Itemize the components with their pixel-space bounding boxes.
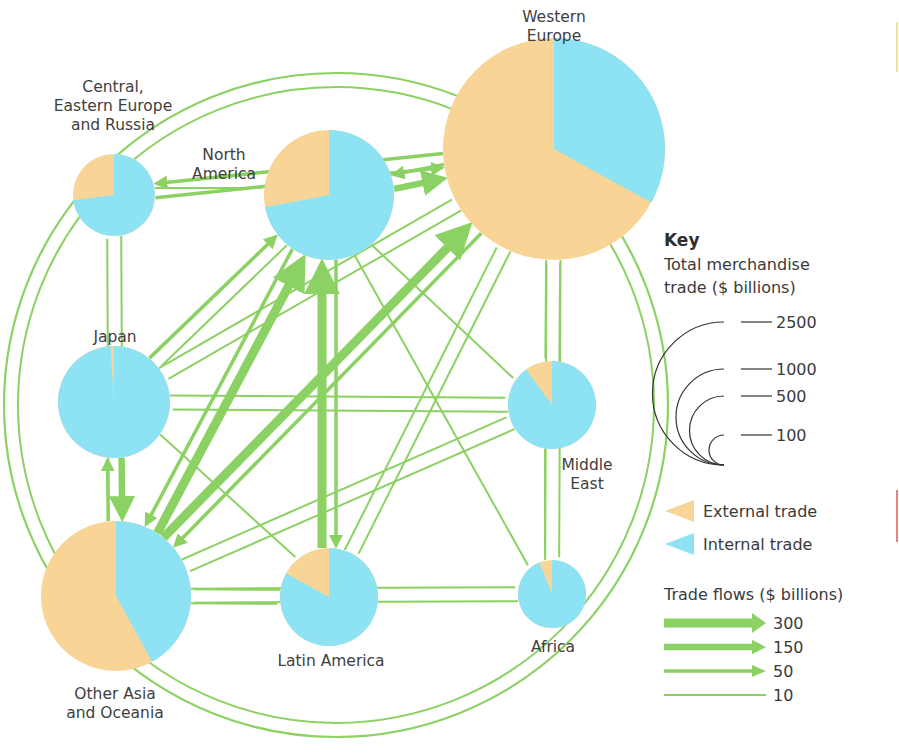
trade-flow-me-to-oa	[190, 429, 514, 571]
region-label-line: Middle	[561, 456, 612, 474]
legend-size-value: 100	[776, 426, 807, 445]
pie-we	[443, 38, 665, 260]
legend-flow-value: 300	[773, 614, 804, 633]
legend-flow-arrowhead	[752, 640, 766, 654]
pie-na	[264, 130, 394, 260]
region-label-line: Africa	[531, 638, 575, 656]
legend-size-title-line-2: trade ($ billions)	[664, 278, 796, 297]
pie-cee	[73, 154, 155, 236]
region-label-oa: Other Asiaand Oceania	[66, 685, 163, 722]
region-label-jp: Japan	[92, 328, 136, 346]
region-label-line: Europe	[527, 27, 582, 45]
trade-flow-we-to-oa	[177, 233, 481, 544]
region-label-line: Other Asia	[74, 685, 155, 703]
region-label-line: Central,	[82, 78, 143, 96]
legend-size-title-line-1: Total merchandise	[663, 255, 810, 274]
legend-flow-title: Trade flows ($ billions)	[663, 585, 843, 604]
region-label-line: and Oceania	[66, 704, 163, 722]
legend-size-value: 2500	[776, 313, 817, 332]
region-label-af: Africa	[531, 638, 575, 656]
region-label-line: North	[202, 146, 245, 164]
legend-flow-arrowhead	[752, 665, 766, 677]
region-label-line: Latin America	[277, 652, 384, 670]
pie-oa	[41, 521, 191, 671]
region-label-me: MiddleEast	[561, 456, 612, 493]
trade-flow-na-to-we	[394, 180, 438, 189]
pie-me	[508, 361, 596, 449]
trade-flow-we-to-la	[359, 251, 511, 554]
legend-flow-value: 10	[773, 686, 793, 705]
legend: Key Total merchandise trade ($ billions)…	[652, 230, 843, 705]
region-label-line: East	[570, 475, 603, 493]
legend-flow-value: 50	[773, 662, 793, 681]
legend-internal-swatch	[665, 533, 694, 555]
legend-internal-label: Internal trade	[703, 535, 812, 554]
legend-size-value: 500	[776, 387, 807, 406]
region-label-line: Western	[522, 8, 586, 26]
legend-flow-value: 150	[773, 638, 804, 657]
region-label-na: NorthAmerica	[192, 146, 256, 183]
world-trade-flow-diagram: WesternEuropeNorthAmericaCentral,Eastern…	[0, 0, 899, 756]
trade-flow-na-to-me	[372, 245, 514, 378]
legend-title: Key	[664, 230, 700, 250]
legend-external-label: External trade	[703, 502, 817, 521]
legend-flow-arrowhead	[752, 613, 766, 633]
region-label-line: and Russia	[71, 116, 155, 134]
edge-artifact-yellow	[896, 22, 898, 72]
region-label-cee: Central,Eastern Europeand Russia	[54, 78, 172, 134]
legend-share-swatches: External tradeInternal trade	[665, 500, 817, 555]
legend-size-arc-100	[709, 435, 724, 465]
trade-flow-oa-to-we	[163, 232, 462, 537]
legend-size-value: 1000	[776, 360, 817, 379]
region-label-line: America	[192, 165, 256, 183]
pie-la	[280, 548, 378, 646]
region-label-line: Japan	[92, 328, 136, 346]
region-label-we: WesternEurope	[522, 8, 586, 45]
edge-artifact-red	[896, 490, 898, 542]
legend-external-swatch	[665, 500, 694, 522]
legend-size-arcs: 25001000500100	[652, 313, 816, 465]
pie-jp	[58, 346, 170, 458]
legend-size-arc-1000	[676, 369, 724, 465]
pie-af	[518, 560, 586, 628]
legend-flow-arrows: 3001505010	[664, 613, 804, 705]
region-label-la: Latin America	[277, 652, 384, 670]
region-label-line: Eastern Europe	[54, 97, 172, 115]
